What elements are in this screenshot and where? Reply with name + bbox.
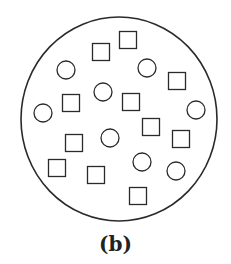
figure-caption: (b) — [0, 232, 231, 256]
square-particle — [143, 119, 160, 136]
circle-particles — [34, 59, 205, 180]
square-particle — [123, 94, 140, 111]
square-particle — [173, 131, 190, 148]
square-particle — [88, 167, 105, 184]
circle-particle — [138, 59, 156, 77]
square-particle — [93, 44, 110, 61]
circle-particle — [57, 61, 75, 79]
circle-particle — [187, 101, 205, 119]
square-particle — [169, 73, 186, 90]
square-particle — [130, 188, 147, 205]
diagram-figure — [0, 0, 231, 264]
square-particles — [49, 32, 190, 205]
square-particle — [66, 135, 83, 152]
circle-particle — [34, 104, 52, 122]
circle-particle — [101, 129, 119, 147]
square-particle — [120, 32, 137, 49]
circle-particle — [133, 153, 151, 171]
square-particle — [63, 95, 80, 112]
circle-particle — [167, 162, 185, 180]
square-particle — [49, 160, 66, 177]
circle-particle — [94, 83, 112, 101]
